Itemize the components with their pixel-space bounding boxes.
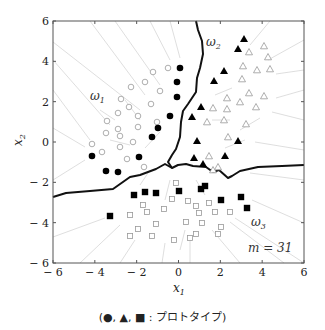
- prototype-square: [131, 192, 137, 198]
- voronoi-edge: [53, 218, 105, 237]
- prototype-circle: [115, 169, 122, 176]
- prototype-circle: [174, 94, 181, 101]
- prototype-triangle: [197, 103, 205, 110]
- sample-triangle: [253, 104, 260, 110]
- prototype-circle: [89, 153, 96, 160]
- voronoi-edge: [276, 70, 304, 74]
- sample-square: [196, 210, 201, 215]
- voronoi-edge: [272, 112, 304, 120]
- sample-circle: [117, 133, 123, 139]
- sample-triangle: [225, 134, 232, 140]
- voronoi-edge: [170, 21, 180, 58]
- sample-triangle: [243, 121, 250, 127]
- prototype-triangle: [190, 154, 198, 161]
- sample-square: [135, 226, 140, 231]
- sample-circle: [154, 119, 160, 125]
- prototype-triangle: [234, 45, 242, 52]
- sample-square: [193, 231, 198, 236]
- prototype-square: [202, 183, 208, 189]
- prototype-triangle: [210, 77, 218, 84]
- figure-caption: (●, ▲, ■ : プロトタイプ): [0, 308, 325, 324]
- x-tick-label: 0: [175, 266, 182, 279]
- sample-points: [89, 43, 273, 243]
- prototype-square: [142, 189, 148, 195]
- sample-square: [218, 224, 223, 229]
- sample-triangle: [239, 76, 246, 82]
- prototype-square: [218, 197, 224, 203]
- sample-circle: [141, 164, 147, 170]
- sample-circle: [142, 79, 148, 85]
- sample-square: [140, 202, 145, 207]
- sample-circle: [99, 149, 105, 155]
- sample-square: [171, 237, 176, 242]
- prototype-circle: [136, 154, 143, 161]
- sample-square: [187, 235, 192, 240]
- voronoi-classification-plot: − 6− 4− 202466420− 2− 4− 6 ω1 ω2 ω3 m = …: [0, 0, 325, 330]
- sample-circle: [148, 101, 154, 107]
- sample-triangle: [246, 49, 253, 55]
- sample-square: [153, 221, 158, 226]
- sample-triangle: [237, 99, 244, 105]
- x-axis-label: x1: [173, 281, 185, 297]
- sample-square: [149, 233, 154, 238]
- voronoi-edge: [80, 225, 120, 263]
- sample-circle: [135, 113, 141, 119]
- prototype-square: [238, 194, 244, 200]
- y-tick-label: 6: [42, 15, 49, 28]
- voronoi-edge: [180, 230, 185, 250]
- x-tick-label: − 4: [85, 266, 105, 279]
- axis-ticks: − 6− 4− 202466420− 2− 4− 6: [29, 15, 307, 279]
- sample-circle: [126, 104, 132, 110]
- sample-circle: [117, 144, 123, 150]
- x-tick-label: 2: [217, 266, 224, 279]
- sample-circle: [89, 141, 95, 147]
- sample-square: [183, 219, 188, 224]
- sample-circle: [124, 156, 130, 162]
- voronoi-edge: [150, 21, 170, 60]
- sample-square: [144, 209, 149, 214]
- voronoi-edge: [53, 90, 90, 140]
- voronoi-edge: [255, 142, 304, 150]
- prototype-count-label: m = 31: [248, 241, 292, 255]
- prototype-triangle: [193, 137, 201, 144]
- prototype-circle: [149, 134, 156, 141]
- region-label-omega3: ω3: [251, 215, 266, 231]
- sample-circle: [118, 96, 124, 102]
- prototype-circle: [167, 113, 174, 120]
- sample-square: [199, 220, 204, 225]
- sample-triangle: [267, 66, 274, 72]
- x-tick-label: 4: [259, 266, 266, 279]
- voronoi-edge: [250, 173, 304, 180]
- sample-triangle: [215, 164, 222, 170]
- prototype-triangle: [240, 35, 248, 42]
- sample-triangle: [261, 93, 268, 99]
- sample-triangle: [254, 67, 261, 73]
- prototype-triangle: [234, 137, 242, 144]
- voronoi-edge: [240, 118, 260, 130]
- sample-square: [227, 209, 232, 214]
- voronoi-edge: [268, 40, 304, 60]
- sample-triangle: [246, 90, 253, 96]
- prototype-points: [89, 35, 251, 219]
- sample-circle: [115, 126, 121, 132]
- sample-triangle: [240, 63, 247, 69]
- sample-triangle: [265, 54, 272, 60]
- y-axis-label: x2: [11, 134, 27, 146]
- voronoi-edge: [162, 243, 165, 263]
- voronoi-edge: [276, 90, 304, 98]
- region-label-omega1: ω1: [90, 89, 105, 105]
- sample-square: [215, 231, 220, 236]
- sample-square: [173, 180, 178, 185]
- voronoi-edge: [53, 160, 85, 180]
- x-tick-label: − 2: [127, 266, 147, 279]
- prototype-circle: [155, 125, 162, 132]
- sample-square: [127, 233, 132, 238]
- voronoi-edge: [215, 88, 232, 95]
- sample-square: [169, 196, 174, 201]
- prototype-circle: [174, 79, 181, 86]
- prototype-triangle: [221, 152, 229, 159]
- region-label-omega2: ω2: [206, 35, 221, 51]
- y-tick-label: 2: [42, 96, 49, 109]
- prototype-circle: [103, 168, 110, 175]
- prototype-square: [153, 190, 159, 196]
